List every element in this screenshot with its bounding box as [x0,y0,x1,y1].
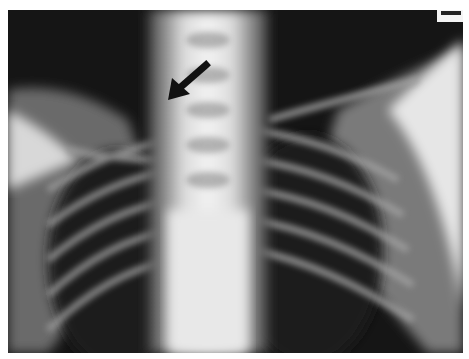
image-frame [0,0,469,359]
chest-xray-image [8,10,463,353]
xray-rendering [8,10,463,353]
corner-marker-bar [441,11,461,15]
